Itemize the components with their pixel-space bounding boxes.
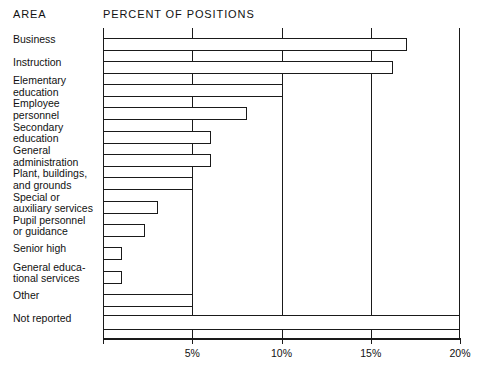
bar <box>103 224 145 237</box>
x-tick-5pct <box>192 338 193 344</box>
gridline-10pct <box>282 28 283 338</box>
category-label: Instruction <box>13 57 105 69</box>
area-column-header: AREA <box>13 8 47 20</box>
category-label-line: Senior high <box>13 243 105 255</box>
bar <box>103 247 122 260</box>
bar <box>103 201 158 214</box>
category-label: Elementaryeducation <box>13 75 105 98</box>
category-label: Special orauxiliary services <box>13 192 105 215</box>
bar <box>103 294 193 307</box>
category-label-line: tional services <box>13 273 105 285</box>
x-tick-label: 15% <box>360 347 381 359</box>
percent-column-header: PERCENT OF POSITIONS <box>103 8 255 20</box>
plot-right-frame <box>459 28 460 338</box>
x-tick-label: 20% <box>449 347 470 359</box>
plot-area <box>103 28 460 338</box>
bar <box>103 154 211 167</box>
category-label: Plant, buildings,and grounds <box>13 168 105 191</box>
category-label-line: Elementary <box>13 75 105 87</box>
x-tick-15pct <box>371 338 372 344</box>
x-tick-label: 10% <box>271 347 292 359</box>
bar-chart: AREA PERCENT OF POSITIONS BusinessInstru… <box>0 0 485 368</box>
category-label-line: personnel <box>13 110 105 122</box>
category-label-column: BusinessInstructionElementaryeducationEm… <box>0 28 103 338</box>
bar <box>103 131 211 144</box>
x-tick-label: 5% <box>185 347 200 359</box>
category-label: Not reported <box>13 313 105 325</box>
category-label-line: Business <box>13 34 105 46</box>
category-label-line: Other <box>13 290 105 302</box>
bar <box>103 61 393 74</box>
bar <box>103 107 247 120</box>
x-tick-10pct <box>282 338 283 344</box>
category-label-line: General <box>13 145 105 157</box>
category-label: General educa-tional services <box>13 262 105 285</box>
category-label: Secondaryeducation <box>13 122 105 145</box>
category-label: Business <box>13 34 105 46</box>
bar <box>103 271 122 284</box>
category-label: Senior high <box>13 243 105 255</box>
category-label-line: Instruction <box>13 57 105 69</box>
bar <box>103 38 407 51</box>
x-tick-0pct <box>103 338 104 344</box>
category-label-line: and grounds <box>13 180 105 192</box>
category-label-line: or guidance <box>13 226 105 238</box>
category-label: Other <box>13 290 105 302</box>
bar-not-reported-frame <box>103 315 460 330</box>
category-label: Employeepersonnel <box>13 98 105 121</box>
category-label: Pupil personnelor guidance <box>13 215 105 238</box>
bar <box>103 177 193 190</box>
category-label-line: Not reported <box>13 313 105 325</box>
bar <box>103 84 283 97</box>
category-label: Generaladministration <box>13 145 105 168</box>
x-tick-20pct <box>460 338 461 344</box>
gridline-15pct <box>371 28 372 338</box>
